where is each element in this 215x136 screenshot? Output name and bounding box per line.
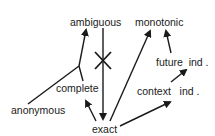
- diagram-canvas: ambiguous monotonic future ind . context…: [0, 0, 215, 136]
- node-ambiguous: ambiguous: [70, 16, 121, 28]
- edge-context-future: [171, 70, 186, 82]
- node-context-ind: context ind .: [137, 85, 199, 97]
- node-complete: complete: [56, 82, 99, 94]
- edge-exact-context: [120, 102, 170, 126]
- node-monotonic: monotonic: [135, 16, 183, 28]
- edge-complete-junction: [79, 66, 83, 81]
- edge-exact-monotonic: [110, 31, 150, 121]
- edge-junction-ambiguous: [79, 30, 86, 66]
- edge-exact-complete: [86, 101, 96, 121]
- node-exact: exact: [92, 123, 117, 135]
- edge-future-monotonic: [166, 31, 171, 53]
- node-future-ind: future ind .: [156, 56, 209, 68]
- node-anonymous: anonymous: [11, 104, 65, 116]
